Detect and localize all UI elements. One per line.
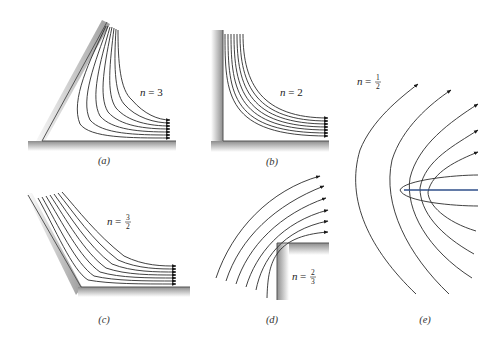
n-label-c: n = 3 2 bbox=[107, 213, 131, 231]
panel-c: n = 3 2 (c) bbox=[26, 192, 190, 326]
svg-text:2: 2 bbox=[376, 82, 380, 91]
svg-text:=: = bbox=[300, 270, 306, 282]
panel-d: n = 2 3 (d) bbox=[216, 176, 329, 326]
panel-a: n = 3 (a) bbox=[28, 20, 176, 167]
wedge-flow-figure: n = 3 (a) n = 2 (b) bbox=[0, 0, 499, 338]
svg-text:n: n bbox=[107, 215, 113, 227]
svg-text:3: 3 bbox=[126, 213, 130, 222]
caption-c: (c) bbox=[98, 314, 110, 326]
svg-text:=: = bbox=[365, 75, 371, 87]
svg-text:2: 2 bbox=[126, 222, 130, 231]
svg-text:n: n bbox=[357, 75, 363, 87]
streamlines-c bbox=[38, 192, 176, 284]
n-label-e: n = 1 2 bbox=[357, 73, 381, 91]
caption-e: (e) bbox=[419, 314, 431, 326]
wall-b bbox=[211, 30, 329, 152]
panel-b: n = 2 (b) bbox=[211, 30, 329, 168]
svg-text:3: 3 bbox=[311, 277, 315, 286]
n-label-d: n = 2 3 bbox=[292, 268, 316, 286]
svg-text:n: n bbox=[292, 270, 298, 282]
streamlines-e bbox=[356, 84, 478, 294]
n-label-a: n = 3 bbox=[140, 86, 163, 98]
caption-b: (b) bbox=[266, 156, 279, 168]
n-label-b: n = 2 bbox=[280, 86, 303, 98]
streamlines-b bbox=[225, 34, 328, 136]
caption-d: (d) bbox=[266, 314, 279, 326]
caption-a: (a) bbox=[98, 155, 111, 167]
svg-text:1: 1 bbox=[376, 73, 380, 82]
panel-e: n = 1 2 (e) bbox=[356, 73, 478, 326]
svg-text:2: 2 bbox=[311, 268, 315, 277]
svg-text:=: = bbox=[115, 215, 121, 227]
